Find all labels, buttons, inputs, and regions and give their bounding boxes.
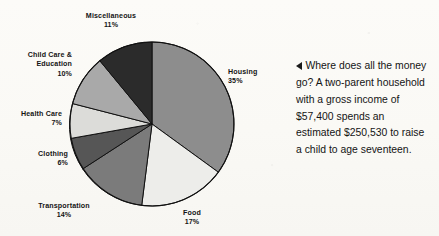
pie-label-miscellaneous-percent: 11%: [56, 21, 166, 30]
pie-label-housing: Housing 35%: [228, 68, 284, 87]
pie-chart: Miscellaneous 11% Child Care & Education…: [0, 0, 290, 236]
pie-label-health-care: Health Care 7%: [0, 110, 62, 129]
pie-label-clothing-name: Clothing: [6, 150, 68, 159]
pie-label-transportation-name: Transportation: [14, 202, 114, 211]
pie-label-miscellaneous-name: Miscellaneous: [56, 12, 166, 21]
pie-label-health-care-name: Health Care: [0, 110, 62, 119]
pie-label-child-care-education-name-line2: Education: [8, 60, 72, 69]
caption-block: Where does all the money go? A two-paren…: [296, 58, 432, 159]
pie-label-food: Food 17%: [166, 209, 218, 228]
pie-label-clothing-percent: 6%: [6, 159, 68, 168]
pie-label-food-name: Food: [166, 209, 218, 218]
pie-label-miscellaneous: Miscellaneous 11%: [56, 12, 166, 31]
pie-label-transportation: Transportation 14%: [14, 202, 114, 221]
pie-label-housing-percent: 35%: [228, 77, 284, 86]
caption-text: Where does all the money go? A two-paren…: [296, 60, 426, 155]
pie-label-clothing: Clothing 6%: [6, 150, 68, 169]
pie-label-child-care-education-name-line1: Child Care &: [8, 51, 72, 60]
pie-label-child-care-education-percent: 10%: [8, 70, 72, 79]
pie-label-food-percent: 17%: [166, 218, 218, 227]
pie-label-transportation-percent: 14%: [14, 211, 114, 220]
left-triangle-icon: [296, 62, 302, 70]
pie-label-health-care-percent: 7%: [0, 119, 62, 128]
pie-label-housing-name: Housing: [228, 68, 284, 77]
pie-label-child-care-education: Child Care & Education 10%: [8, 51, 72, 79]
